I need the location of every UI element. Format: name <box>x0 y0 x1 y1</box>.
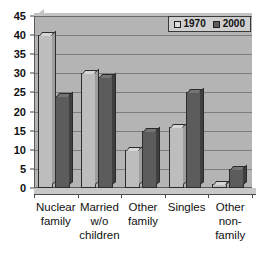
bar-1970 <box>38 35 53 188</box>
y-axis-tick-label: 20 <box>0 106 26 117</box>
y-axis-tick-label: 0 <box>0 183 26 194</box>
x-axis-tick-mark <box>252 194 253 198</box>
y-axis-tick-mark <box>30 168 34 169</box>
bar-group <box>78 16 122 188</box>
legend-item-1970: 1970 <box>174 19 206 29</box>
x-axis-tick-mark <box>34 194 35 198</box>
x-axis-tick-mark <box>121 194 122 198</box>
y-axis-tick-label: 40 <box>0 30 26 41</box>
x-axis-label: Singles <box>165 200 209 214</box>
legend-swatch-1970-icon <box>174 21 181 28</box>
x-axis-label: Nuclearfamily <box>34 200 78 228</box>
bar-1970 <box>125 150 140 188</box>
y-axis-tick-label: 15 <box>0 125 26 136</box>
y-axis-tick-mark <box>30 73 34 74</box>
bar-side-face <box>112 73 116 185</box>
x-axis-label: Othernon-family <box>208 200 252 242</box>
y-axis-tick-label: 5 <box>0 163 26 174</box>
bar-side-face <box>200 88 204 185</box>
bar-1970 <box>212 184 227 188</box>
y-axis-tick-mark <box>30 130 34 131</box>
bar-group <box>208 16 252 188</box>
bar-2000 <box>98 77 113 188</box>
bar-2000 <box>142 131 157 188</box>
x-axis-label-line: w/o <box>78 214 122 228</box>
bar-group <box>165 16 209 188</box>
y-axis-tick-mark <box>30 149 34 150</box>
y-axis-tick-mark <box>30 111 34 112</box>
chart-legend: 1970 2000 <box>168 16 252 32</box>
bar-chart: 051015202530354045 NuclearfamilyMarriedw… <box>0 0 258 257</box>
y-axis-tick-mark <box>30 188 34 189</box>
y-axis-tick-label: 45 <box>0 11 26 22</box>
y-axis-tick-label: 35 <box>0 49 26 60</box>
y-axis-tick-mark <box>30 54 34 55</box>
bar-side-face <box>95 69 99 185</box>
y-axis-tick-label: 25 <box>0 87 26 98</box>
bar-side-face <box>183 123 187 185</box>
x-axis-ticks <box>34 194 256 199</box>
x-axis-tick-mark <box>78 194 79 198</box>
y-axis-tick-mark <box>30 92 34 93</box>
bar-2000 <box>186 92 201 188</box>
x-axis-label-line: family <box>34 214 78 228</box>
bar-side-face <box>156 126 160 185</box>
bar-2000 <box>229 169 244 188</box>
x-axis-label-line: Married <box>78 200 122 214</box>
legend-label-2000: 2000 <box>223 19 245 29</box>
x-axis-labels: NuclearfamilyMarriedw/ochildrenOtherfami… <box>30 200 258 257</box>
x-axis-label: Marriedw/ochildren <box>78 200 122 242</box>
x-axis-label-line: Other <box>208 200 252 214</box>
x-axis-tick-mark <box>208 194 209 198</box>
bar-side-face <box>69 92 73 185</box>
y-axis-tick-mark <box>30 35 34 36</box>
y-axis-tick-mark <box>30 16 34 17</box>
bar-2000 <box>55 96 70 188</box>
x-axis-label-line: family <box>121 214 165 228</box>
y-axis: 051015202530354045 <box>0 0 30 190</box>
bar-1970 <box>169 127 184 188</box>
bar-group <box>34 16 78 188</box>
x-axis-label-line: Singles <box>165 200 209 214</box>
legend-label-1970: 1970 <box>184 19 206 29</box>
x-axis-label-line: children <box>78 228 122 242</box>
bar-side-face <box>243 165 247 185</box>
x-axis-label-line: Nuclear <box>34 200 78 214</box>
y-axis-tick-label: 30 <box>0 68 26 79</box>
bar-side-face <box>139 145 143 185</box>
bar-group <box>121 16 165 188</box>
y-axis-tick-label: 10 <box>0 144 26 155</box>
bar-side-face <box>52 31 56 185</box>
x-axis-label: Otherfamily <box>121 200 165 228</box>
x-axis-tick-mark <box>165 194 166 198</box>
legend-item-2000: 2000 <box>213 19 245 29</box>
bar-1970 <box>81 73 96 188</box>
bars-layer <box>34 16 252 188</box>
x-axis-label-line: Other <box>121 200 165 214</box>
x-axis-label-line: family <box>208 228 252 242</box>
x-axis-label-line: non- <box>208 214 252 228</box>
legend-swatch-2000-icon <box>213 21 220 28</box>
